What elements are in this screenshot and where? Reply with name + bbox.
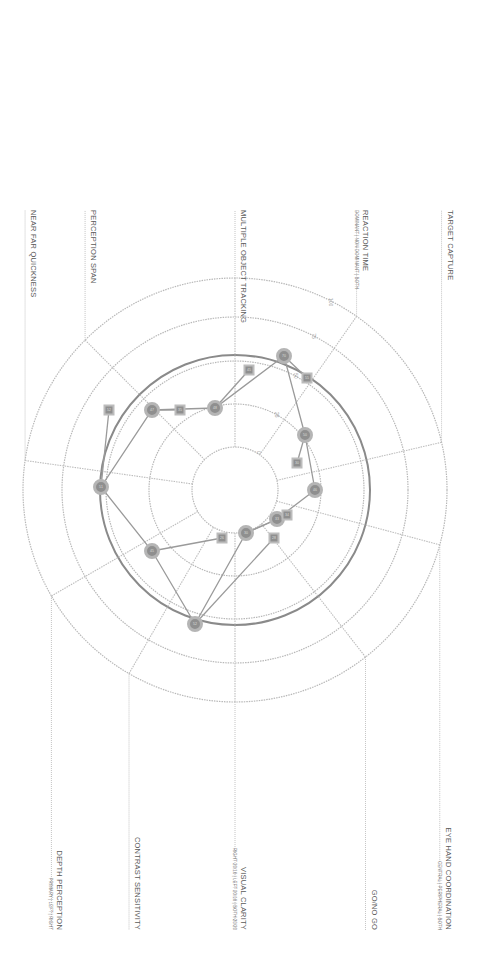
score-value: 33 — [275, 517, 279, 521]
score-value: 50 — [303, 433, 307, 437]
score-polyline — [101, 356, 315, 624]
score-value: 51 — [99, 485, 103, 489]
score-value: 47 — [150, 408, 154, 412]
tick-label: 50 — [293, 373, 299, 379]
radar-chart: VISUAL CLARITYRIGHT 20/16 | LEFT 20/16 |… — [0, 0, 494, 977]
secondary-value: 45 — [247, 368, 251, 372]
data-lines — [101, 356, 315, 624]
axis-label: NEAR FAR QUICKNESS — [29, 210, 38, 297]
axis-label: GO/NO GO — [370, 890, 379, 930]
axis-label: PERCEPTION SPAN — [89, 210, 98, 284]
score-value: 30 — [244, 531, 248, 535]
secondary-connector — [101, 410, 109, 487]
axis-label: EYE HAND COORDINATION — [444, 828, 453, 930]
axis-label: VISUAL CLARITY — [239, 867, 248, 930]
axis-sublabel: PRIMARY | LEFT | RIGHT — [48, 877, 53, 930]
axis-sublabel: DOMINANT | NON DOMINANT | BOTH — [354, 210, 359, 289]
axis-spoke — [261, 524, 365, 657]
score-value: 70 — [282, 354, 286, 358]
ring-25 — [149, 404, 321, 576]
axis-spoke — [51, 512, 197, 597]
axis-label: DEPTH PERCEPTION — [55, 851, 64, 930]
tick-label: 0 — [256, 451, 262, 454]
secondary-value: 34 — [285, 513, 289, 517]
secondary-value: 28 — [272, 536, 276, 540]
axis-label: TARGET CAPTURE — [446, 210, 455, 280]
score-value: 45 — [150, 549, 154, 553]
axis-spoke — [85, 340, 205, 460]
axis-label: MULTIPLE OBJECT TRACKING — [239, 210, 248, 323]
secondary-value: 30 — [295, 461, 299, 465]
tick-label: 100 — [328, 298, 334, 307]
axis-spoke — [277, 501, 440, 545]
scale-ticks: 0255075100 — [256, 298, 333, 454]
axis-spoke — [129, 527, 214, 673]
secondary-value: 26 — [220, 536, 224, 540]
score-value: 46 — [313, 488, 317, 492]
secondary-value: 52 — [107, 408, 111, 412]
chart-spokes — [25, 278, 442, 702]
axis-sublabel: CENTRAL | PERIPHERAL | BOTH — [437, 861, 442, 930]
axis-label: REACTION TIME — [361, 210, 370, 271]
tick-label: 75 — [311, 333, 317, 339]
axis-sublabel: RIGHT 20/16 | LEFT 20/16 | BOTH 20/20 — [232, 848, 237, 931]
ring-0 — [192, 447, 278, 533]
axis-label: CONTRAST SENSITIVITY — [133, 837, 142, 930]
secondary-value: 35 — [178, 408, 182, 412]
data-markers: 465070484751455230333055453552262834 — [95, 350, 322, 631]
tick-label: 25 — [274, 412, 280, 418]
secondary-connector — [152, 538, 222, 551]
score-value: 48 — [213, 406, 217, 410]
axis-labels: VISUAL CLARITYRIGHT 20/16 | LEFT 20/16 |… — [29, 210, 455, 930]
score-value: 52 — [193, 622, 197, 626]
secondary-value: 55 — [305, 376, 309, 380]
axis-leaders — [25, 210, 442, 930]
